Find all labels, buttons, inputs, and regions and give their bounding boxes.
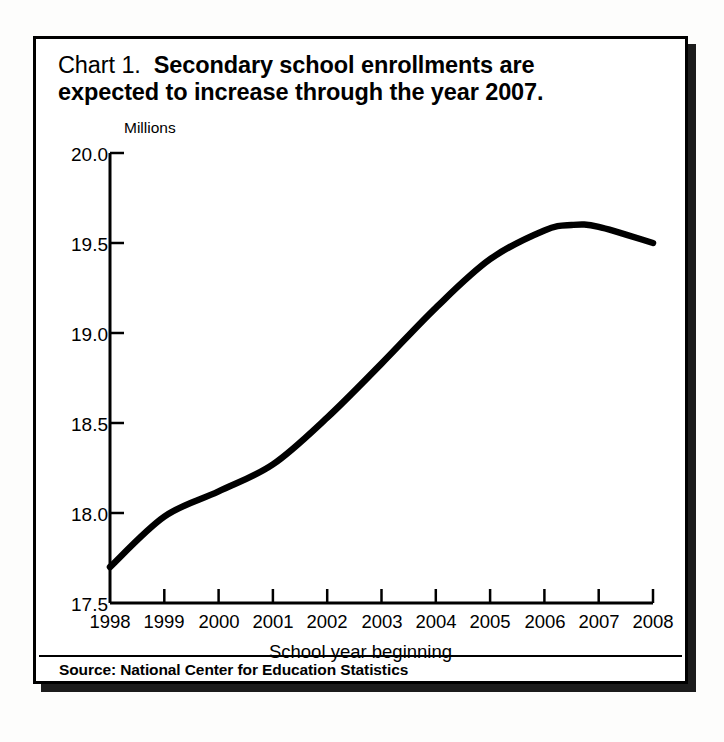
x-tick-label-2000: 2000: [188, 611, 250, 633]
x-tick-label-2005: 2005: [459, 611, 521, 633]
chart-figure-frame: Chart 1. Secondary school enrollments ar…: [33, 36, 688, 684]
x-tick-label-1999: 1999: [133, 611, 195, 633]
y-axis-unit-label: Millions: [124, 119, 176, 137]
source-divider: [39, 655, 682, 657]
x-tick-label-2004: 2004: [405, 611, 467, 633]
x-axis-title: School year beginning: [36, 641, 685, 663]
y-axis-ticks: [110, 153, 124, 513]
source-note: Source: National Center for Education St…: [59, 661, 408, 679]
x-tick-label-2007: 2007: [568, 611, 630, 633]
y-tick-label-18-0: 18.0: [46, 504, 108, 526]
page-canvas: Chart 1. Secondary school enrollments ar…: [0, 0, 724, 742]
y-tick-label-19-0: 19.0: [46, 324, 108, 346]
plot-area: Millions 20.0 19.5 19.0 18.5 18.0 17.5 1…: [36, 39, 685, 681]
y-tick-label-18-5: 18.5: [46, 414, 108, 436]
y-tick-label-19-5: 19.5: [46, 234, 108, 256]
x-tick-label-1998: 1998: [79, 611, 141, 633]
x-tick-label-2002: 2002: [296, 611, 358, 633]
x-tick-label-2008: 2008: [622, 611, 684, 633]
y-tick-label-20-0: 20.0: [46, 144, 108, 166]
x-axis-ticks: [164, 589, 653, 603]
x-tick-label-2006: 2006: [514, 611, 576, 633]
x-tick-label-2003: 2003: [351, 611, 413, 633]
enrollment-line-series: [110, 225, 653, 567]
x-tick-label-2001: 2001: [242, 611, 304, 633]
